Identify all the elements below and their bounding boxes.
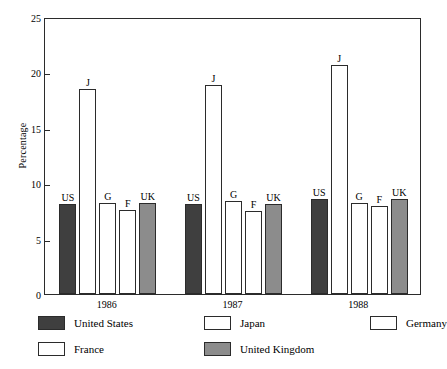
bar-uk-1986[interactable]: UK	[139, 203, 156, 294]
bar-point-label: G	[356, 192, 363, 204]
legend-swatch-icon	[38, 342, 65, 356]
legend-item[interactable]: Germany	[370, 316, 447, 330]
bar-point-label: US	[313, 188, 326, 200]
bar-point-label: J	[212, 74, 216, 86]
bar-j-1988[interactable]: J	[331, 65, 348, 294]
bar-point-label: F	[376, 195, 382, 207]
bar-f-1988[interactable]: F	[371, 206, 388, 294]
y-axis-tick-mark	[45, 241, 50, 242]
y-axis-tick-label: 20	[21, 69, 41, 79]
bar-g-1986[interactable]: G	[99, 203, 116, 294]
bar-us-1986[interactable]: US	[59, 204, 76, 294]
bar-j-1986[interactable]: J	[79, 89, 96, 294]
bar-us-1988[interactable]: US	[311, 199, 328, 294]
bar-group: USJGFUK	[185, 19, 282, 294]
bar-point-label: UK	[392, 188, 406, 200]
bar-point-label: UK	[266, 193, 280, 205]
bar-point-label: UK	[141, 192, 155, 204]
legend-label: Japan	[240, 318, 265, 329]
legend-swatch-icon	[204, 342, 231, 356]
x-axis-tick-label-1987: 1987	[223, 299, 243, 310]
bar-point-label: US	[187, 193, 200, 205]
legend-swatch-icon	[204, 316, 231, 330]
bar-uk-1987[interactable]: UK	[265, 204, 282, 294]
bar-point-label: US	[61, 193, 74, 205]
y-axis-tick-label: 25	[21, 14, 41, 24]
plot-area: USJGFUKUSJGFUKUSJGFUK 0510152025	[44, 18, 421, 295]
legend-item[interactable]: United Kingdom	[204, 342, 314, 356]
legend-label: Germany	[406, 318, 447, 329]
chart-legend: United StatesJapanGermanyFranceUnited Ki…	[38, 316, 434, 364]
legend-label: United Kingdom	[240, 344, 314, 355]
y-axis-tick-mark	[45, 130, 50, 131]
bar-point-label: F	[125, 199, 131, 211]
bar-f-1987[interactable]: F	[245, 211, 262, 294]
bar-group: USJGFUK	[311, 19, 408, 294]
y-axis-tick-mark	[45, 185, 50, 186]
legend-label: United States	[74, 318, 133, 329]
y-axis-tick-label: 15	[21, 125, 41, 135]
legend-label: France	[74, 344, 104, 355]
y-axis-tick-label: 0	[21, 291, 41, 301]
legend-item[interactable]: France	[38, 342, 104, 356]
bar-point-label: J	[86, 78, 90, 90]
legend-item[interactable]: Japan	[204, 316, 265, 330]
bar-uk-1988[interactable]: UK	[391, 199, 408, 294]
legend-item[interactable]: United States	[38, 316, 133, 330]
bar-f-1986[interactable]: F	[119, 210, 136, 294]
legend-swatch-icon	[38, 316, 65, 330]
y-axis-tick-mark	[45, 74, 50, 75]
bar-point-label: G	[104, 192, 111, 204]
bar-group: USJGFUK	[59, 19, 156, 294]
legend-swatch-icon	[370, 316, 397, 330]
bar-us-1987[interactable]: US	[185, 204, 202, 294]
bar-j-1987[interactable]: J	[205, 85, 222, 294]
plot-inner: USJGFUKUSJGFUKUSJGFUK	[45, 19, 420, 294]
y-axis-tick-label: 5	[21, 236, 41, 246]
bar-point-label: F	[251, 200, 257, 212]
bar-g-1987[interactable]: G	[225, 201, 242, 294]
bar-point-label: G	[230, 190, 237, 202]
bar-point-label: J	[337, 54, 341, 66]
x-axis-tick-label-1988: 1988	[348, 299, 368, 310]
y-axis-tick-label: 10	[21, 180, 41, 190]
x-axis-tick-label-1986: 1986	[97, 299, 117, 310]
bar-g-1988[interactable]: G	[351, 203, 368, 294]
